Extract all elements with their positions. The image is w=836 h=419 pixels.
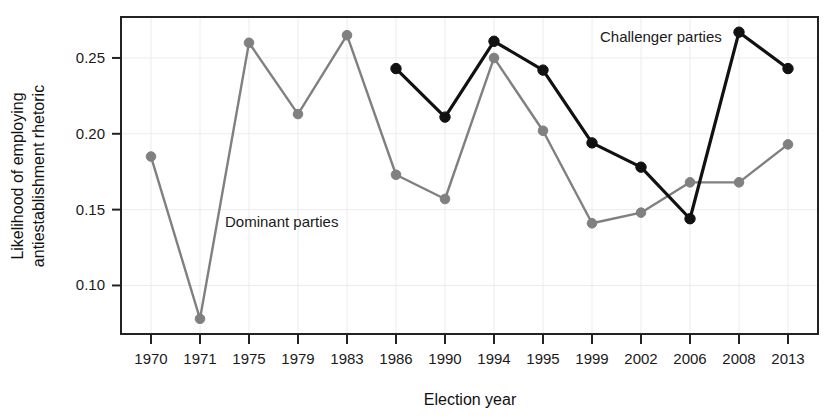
data-point <box>195 314 205 324</box>
data-point <box>587 138 597 148</box>
x-tick-label: 1970 <box>134 350 167 367</box>
y-tick-label: 0.20 <box>76 125 105 142</box>
x-tick-label: 2002 <box>624 350 657 367</box>
y-axis-ticks: 0.100.150.200.25 <box>76 49 121 294</box>
y-axis-title-line1: Likelihood of employing <box>9 92 26 259</box>
data-point <box>440 194 450 204</box>
data-point <box>146 152 156 162</box>
challenger-parties-annotation: Challenger parties <box>600 28 722 45</box>
y-tick-label: 0.15 <box>76 201 105 218</box>
y-tick-label: 0.10 <box>76 276 105 293</box>
x-tick-label: 2013 <box>771 350 804 367</box>
data-point <box>636 208 646 218</box>
data-point <box>783 140 793 150</box>
data-point <box>538 65 548 75</box>
data-point <box>342 30 352 40</box>
data-point <box>489 36 499 46</box>
data-point <box>538 126 548 136</box>
data-point <box>391 170 401 180</box>
data-point <box>587 218 597 228</box>
data-point <box>636 162 646 172</box>
data-point <box>685 214 695 224</box>
x-tick-label: 1995 <box>526 350 559 367</box>
dominant-parties-annotation: Dominant parties <box>225 213 338 230</box>
x-tick-label: 1994 <box>477 350 510 367</box>
data-point <box>440 112 450 122</box>
x-tick-label: 1975 <box>232 350 265 367</box>
series-dominant-parties <box>146 30 793 323</box>
x-tick-label: 2008 <box>722 350 755 367</box>
x-tick-label: 2006 <box>673 350 706 367</box>
data-point <box>489 53 499 63</box>
x-tick-label: 1986 <box>379 350 412 367</box>
data-point <box>391 63 401 73</box>
x-tick-label: 1999 <box>575 350 608 367</box>
y-axis-title-line2: antiestablishment rhetoric <box>30 85 47 267</box>
data-point <box>734 178 744 188</box>
x-axis-ticks: 1970197119751979198319861990199419951999… <box>134 334 804 367</box>
data-point <box>783 63 793 73</box>
line-chart-svg: 0.100.150.200.25 19701971197519791983198… <box>0 0 836 419</box>
chart-figure: 0.100.150.200.25 19701971197519791983198… <box>0 0 836 419</box>
data-point <box>293 109 303 119</box>
series-layer <box>146 27 793 324</box>
data-point <box>244 38 254 48</box>
x-tick-label: 1983 <box>330 350 363 367</box>
data-point <box>734 27 744 37</box>
x-tick-label: 1990 <box>428 350 461 367</box>
x-tick-label: 1971 <box>183 350 216 367</box>
x-axis-title: Election year <box>424 391 517 408</box>
y-tick-label: 0.25 <box>76 49 105 66</box>
x-tick-label: 1979 <box>281 350 314 367</box>
data-point <box>685 178 695 188</box>
